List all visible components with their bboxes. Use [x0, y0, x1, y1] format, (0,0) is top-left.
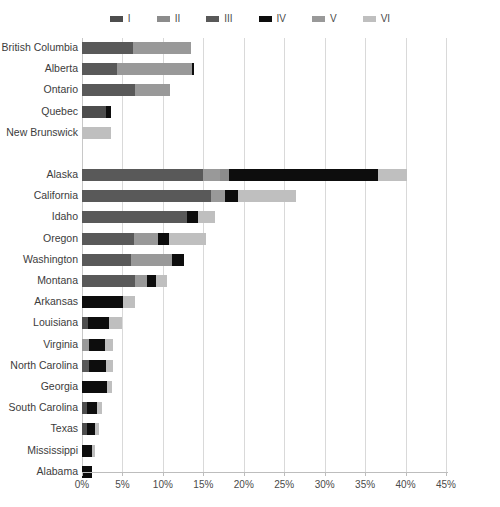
- bar-segment-III[interactable]: [82, 169, 203, 181]
- legend-item-VI[interactable]: VI: [363, 14, 390, 24]
- bar-segment-V[interactable]: [135, 275, 147, 287]
- bar-segment-VI[interactable]: [107, 381, 112, 393]
- stacked-bar[interactable]: [82, 445, 95, 457]
- bar-row[interactable]: [82, 84, 446, 96]
- stacked-bar[interactable]: [82, 63, 194, 75]
- bar-segment-IV[interactable]: [82, 445, 92, 457]
- bar-segment-III[interactable]: [82, 254, 131, 266]
- bar-segment-V[interactable]: [211, 190, 225, 202]
- bar-row[interactable]: [82, 445, 446, 457]
- bar-segment-III[interactable]: [82, 42, 133, 54]
- bar-segment-IV[interactable]: [82, 381, 107, 393]
- stacked-bar[interactable]: [82, 254, 184, 266]
- bar-segment-IV[interactable]: [225, 190, 238, 202]
- bar-segment-VI[interactable]: [378, 169, 407, 181]
- stacked-bar[interactable]: [82, 84, 170, 96]
- bar-segment-IV[interactable]: [106, 106, 111, 118]
- stacked-bar[interactable]: [82, 275, 167, 287]
- category-label: South Carolina: [0, 401, 78, 413]
- bar-segment-IV[interactable]: [172, 254, 184, 266]
- bar-row[interactable]: [82, 127, 446, 139]
- bar-segment-VI[interactable]: [92, 445, 95, 457]
- legend-item-I[interactable]: I: [110, 14, 131, 24]
- bar-segment-VI[interactable]: [169, 233, 205, 245]
- bar-row[interactable]: [82, 317, 446, 329]
- bar-segment-V[interactable]: [134, 233, 158, 245]
- bar-segment-VI[interactable]: [156, 275, 167, 287]
- stacked-bar[interactable]: [82, 169, 407, 181]
- bar-row[interactable]: [82, 211, 446, 223]
- bar-row[interactable]: [82, 423, 446, 435]
- bar-segment-III[interactable]: [82, 63, 117, 75]
- legend-item-IV[interactable]: IV: [259, 14, 286, 24]
- bar-segment-I[interactable]: [82, 106, 106, 118]
- bar-segment-IV[interactable]: [89, 360, 106, 372]
- bar-segment-VI[interactable]: [95, 423, 99, 435]
- bar-row[interactable]: [82, 360, 446, 372]
- bar-row[interactable]: [82, 63, 446, 75]
- category-label: Quebec: [0, 105, 78, 117]
- bar-row[interactable]: [82, 106, 446, 118]
- bar-row[interactable]: [82, 381, 446, 393]
- bar-segment-III[interactable]: [82, 211, 187, 223]
- bar-segment-VI[interactable]: [123, 296, 135, 308]
- x-tick-30: [325, 472, 326, 476]
- bar-segment-V[interactable]: [131, 254, 172, 266]
- legend-item-II[interactable]: II: [157, 14, 181, 24]
- bar-segment-V[interactable]: [135, 84, 171, 96]
- stacked-bar[interactable]: [82, 106, 111, 118]
- bar-segment-IV[interactable]: [88, 317, 109, 329]
- bar-row[interactable]: [82, 169, 446, 181]
- bar-segment-III[interactable]: [82, 275, 135, 287]
- bar-segment-IV[interactable]: [82, 296, 123, 308]
- bar-segment-V[interactable]: [133, 42, 191, 54]
- bar-row[interactable]: [82, 190, 446, 202]
- bar-segment-III[interactable]: [82, 233, 134, 245]
- bar-row[interactable]: [82, 339, 446, 351]
- stacked-bar[interactable]: [82, 381, 112, 393]
- bar-row[interactable]: [82, 275, 446, 287]
- bar-segment-IV[interactable]: [147, 275, 157, 287]
- stacked-bar[interactable]: [82, 360, 113, 372]
- stacked-bar[interactable]: [82, 317, 122, 329]
- category-label: Montana: [0, 274, 78, 286]
- bar-segment-VI[interactable]: [97, 402, 103, 414]
- bar-segment-III[interactable]: [82, 360, 89, 372]
- stacked-bar[interactable]: [82, 211, 215, 223]
- bar-segment-VI[interactable]: [106, 360, 112, 372]
- bar-row[interactable]: [82, 402, 446, 414]
- bar-segment-IV[interactable]: [87, 402, 97, 414]
- bar-segment-II[interactable]: [220, 169, 230, 181]
- bar-segment-VI[interactable]: [82, 127, 111, 139]
- bar-segment-VI[interactable]: [109, 317, 122, 329]
- bar-segment-IV[interactable]: [87, 423, 95, 435]
- bar-row[interactable]: [82, 233, 446, 245]
- stacked-bar[interactable]: [82, 233, 206, 245]
- stacked-bar[interactable]: [82, 296, 135, 308]
- bar-segment-VI[interactable]: [105, 339, 112, 351]
- bar-segment-IV[interactable]: [192, 63, 194, 75]
- stacked-bar[interactable]: [82, 190, 296, 202]
- bar-segment-III[interactable]: [82, 84, 135, 96]
- stacked-bar[interactable]: [82, 402, 102, 414]
- bar-segment-III[interactable]: [82, 190, 211, 202]
- bar-segment-IV[interactable]: [187, 211, 198, 223]
- bar-row[interactable]: [82, 42, 446, 54]
- bar-segment-IV[interactable]: [89, 339, 105, 351]
- stacked-bar[interactable]: [82, 42, 191, 54]
- bar-row[interactable]: [82, 296, 446, 308]
- stacked-bar[interactable]: [82, 127, 111, 139]
- stacked-bar[interactable]: [82, 423, 99, 435]
- bar-segment-IV[interactable]: [229, 169, 378, 181]
- bar-segment-VI[interactable]: [198, 211, 214, 223]
- legend-item-V[interactable]: V: [312, 14, 337, 24]
- bar-segment-V[interactable]: [117, 63, 192, 75]
- bar-segment-IV[interactable]: [158, 233, 169, 245]
- x-tick-5: [122, 472, 123, 476]
- stacked-bar[interactable]: [82, 339, 113, 351]
- bar-segment-V[interactable]: [82, 339, 89, 351]
- bar-segment-V[interactable]: [203, 169, 219, 181]
- bar-row[interactable]: [82, 254, 446, 266]
- legend-item-III[interactable]: III: [206, 14, 232, 24]
- bar-segment-VI[interactable]: [238, 190, 295, 202]
